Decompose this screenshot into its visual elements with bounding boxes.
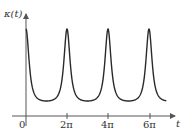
tick-label-4pi: 4π <box>101 119 114 130</box>
curvature-curve <box>26 29 166 101</box>
origin-label: 0 <box>19 119 25 130</box>
x-axis-label: t <box>176 118 180 129</box>
curvature-chart: κ(t) t 0 2π 4π 6π <box>0 0 185 138</box>
plot-area <box>0 0 185 138</box>
tick-label-6pi: 6π <box>143 119 156 130</box>
tick-label-2pi: 2π <box>60 119 73 130</box>
y-axis-label: κ(t) <box>4 8 22 19</box>
